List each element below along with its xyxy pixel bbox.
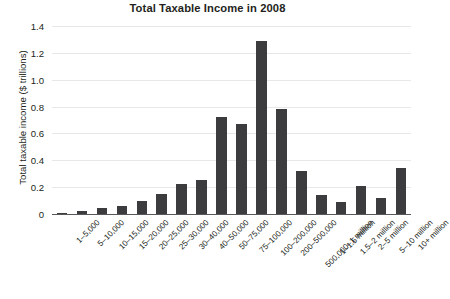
y-tick-label: 1.2 (31, 47, 44, 58)
x-axis-tick-labels: 1–5,0005–10,00010–15,00015–20,00020–25,0… (52, 216, 415, 299)
gridline (52, 133, 411, 134)
bar[interactable] (137, 201, 148, 214)
bar[interactable] (176, 184, 187, 214)
bar[interactable] (276, 109, 287, 214)
gridline (52, 107, 411, 108)
gridline (52, 80, 411, 81)
y-tick-label: 0.2 (31, 182, 44, 193)
y-tick-label: 0.8 (31, 101, 44, 112)
plot-area (52, 26, 411, 214)
gridline (52, 26, 411, 27)
y-tick-label: 1.4 (31, 21, 44, 32)
bar[interactable] (396, 168, 407, 214)
bar[interactable] (256, 41, 267, 214)
bar[interactable] (336, 202, 347, 214)
bar[interactable] (356, 186, 367, 214)
bar[interactable] (216, 117, 227, 214)
chart-title: Total Taxable Income in 2008 (0, 2, 415, 14)
bar[interactable] (296, 171, 307, 214)
bar[interactable] (196, 180, 207, 214)
bar[interactable] (156, 194, 167, 214)
bar[interactable] (316, 195, 327, 214)
y-axis-tick-labels: 00.20.40.60.81.01.21.4 (0, 0, 48, 299)
x-axis-line (52, 214, 411, 215)
y-tick-label: 0.6 (31, 128, 44, 139)
y-tick-label: 0 (39, 209, 44, 220)
gridline (52, 53, 411, 54)
gridline (52, 160, 411, 161)
y-tick-label: 1.0 (31, 74, 44, 85)
bar[interactable] (236, 124, 247, 214)
y-tick-label: 0.4 (31, 155, 44, 166)
bar[interactable] (117, 206, 128, 214)
bar[interactable] (376, 198, 387, 214)
